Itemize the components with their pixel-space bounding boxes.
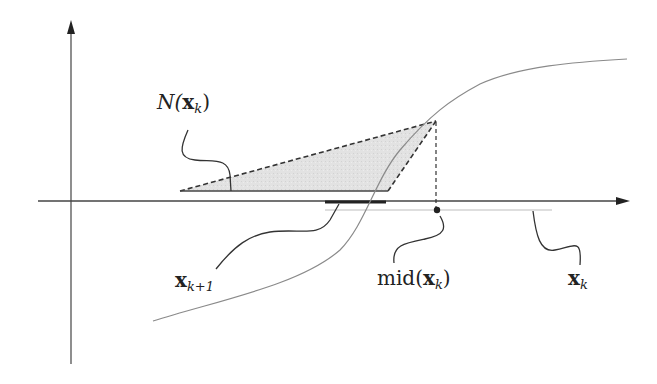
label-current-interval: xk xyxy=(568,266,588,290)
label-suffix: ) xyxy=(202,90,210,114)
y-axis xyxy=(67,20,75,364)
label-sub: k xyxy=(580,277,588,292)
label-sub: k+1 xyxy=(187,279,214,294)
label-var: x xyxy=(175,268,187,292)
newton-operator-region xyxy=(180,121,436,191)
label-prefix: mid( xyxy=(377,266,423,290)
diagram-graphics xyxy=(0,0,657,384)
label-midpoint: mid(xk) xyxy=(377,266,451,290)
label-suffix: ) xyxy=(443,266,451,290)
leader-xk xyxy=(533,211,580,265)
label-newton-operator: N(xk) xyxy=(157,90,210,114)
label-sub: k xyxy=(435,277,443,292)
leader-xk1 xyxy=(216,204,339,269)
label-next-interval: xk+1 xyxy=(175,268,214,292)
leader-midpoint xyxy=(394,216,444,263)
label-var: x xyxy=(182,90,194,114)
label-var: x xyxy=(568,266,580,290)
label-prefix: N( xyxy=(157,90,182,114)
label-sub: k xyxy=(194,101,202,116)
diagram-canvas: N(xk) xk+1 mid(xk) xk xyxy=(0,0,657,384)
label-var: x xyxy=(423,266,435,290)
midpoint-dot xyxy=(434,207,440,213)
